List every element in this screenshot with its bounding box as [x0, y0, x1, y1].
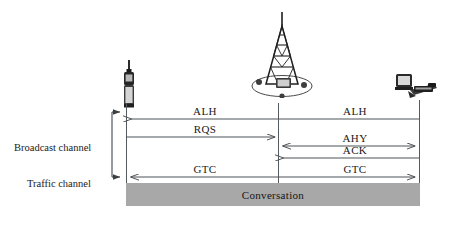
switching-center-computer-icon	[394, 72, 438, 106]
message-label-alh-right: ALH	[300, 105, 410, 117]
conversation-label: Conversation	[242, 189, 304, 201]
conversation-bar: Conversation	[126, 183, 420, 206]
diagram-canvas: ALH ALH RQS AHY ACK GTC GTC Broadcast ch…	[0, 0, 468, 226]
lifeline-switching-center	[419, 100, 420, 183]
message-label-ahy: AHY	[300, 132, 410, 144]
message-label-alh-left: ALH	[150, 105, 260, 117]
mobile-station-icon	[118, 60, 140, 116]
base-station-tower-icon	[248, 10, 316, 102]
message-label-gtc-left: GTC	[150, 163, 260, 175]
channel-label-traffic: Traffic channel	[27, 178, 91, 189]
message-label-ack: ACK	[300, 144, 410, 156]
message-label-rqs: RQS	[150, 123, 260, 135]
channel-label-broadcast: Broadcast channel	[14, 142, 91, 153]
lifeline-mobile	[126, 103, 127, 183]
lifeline-base-station	[278, 103, 279, 183]
message-label-gtc-right: GTC	[300, 163, 410, 175]
